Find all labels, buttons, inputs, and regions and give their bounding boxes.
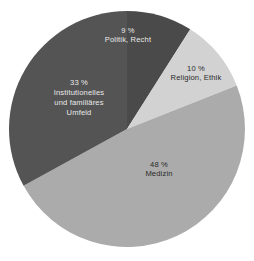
pie-chart: 9 % Politik, Recht 10 % Religion, Ethik … [0,0,254,261]
pie-chart-canvas [0,0,254,261]
pie-slices [9,11,245,247]
